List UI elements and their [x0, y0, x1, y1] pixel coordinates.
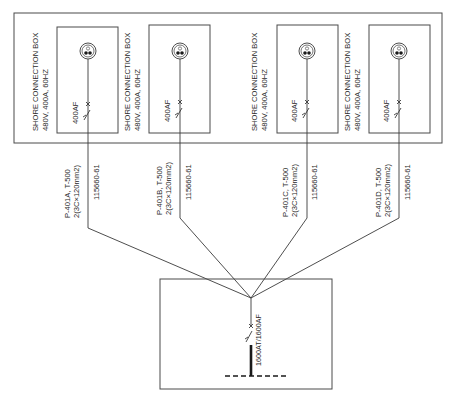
breaker-rating: 400AF — [290, 99, 299, 122]
breaker-symbol-icon — [175, 100, 182, 118]
shore-box-title: SHORE CONNECTION BOX — [343, 33, 352, 131]
cable-spec: 2(3C×120mm2) — [164, 162, 173, 215]
drawing-ref: 115660-61 — [403, 164, 412, 200]
shore-connection-box-2: SHORE CONNECTION BOX 480V, 400A, 60HZ 40… — [123, 25, 210, 218]
cable-id: P-401B, T-500 — [155, 166, 164, 215]
drawing-ref: 115660-61 — [92, 164, 101, 200]
receptacle-icon — [172, 43, 188, 59]
breaker-symbol-icon — [394, 100, 401, 118]
main-breaker-rating: 1600AT/1600AF — [254, 314, 263, 366]
breaker-symbol-icon — [83, 102, 90, 120]
feeder-cables — [88, 218, 399, 298]
drawing-ref: 115660-61 — [184, 164, 193, 200]
main-breaker-symbol-icon — [245, 324, 253, 342]
breaker-symbol-icon — [302, 100, 309, 118]
cable-spec: 2(3C×120mm2) — [383, 164, 392, 217]
cable-id: P-401C, T-500 — [281, 168, 290, 217]
shore-connection-box-3: SHORE CONNECTION BOX 480V, 400A, 60HZ 40… — [250, 25, 338, 218]
cable-spec: 2(3C×120mm2) — [72, 165, 81, 218]
drawing-ref: 115660-61 — [310, 164, 319, 200]
shore-box-rating: 480V, 400A, 60HZ — [260, 69, 269, 131]
receptacle-icon — [391, 43, 407, 59]
receptacle-icon — [299, 43, 315, 59]
shore-box-rating: 480V, 400A, 60HZ — [41, 69, 50, 131]
breaker-rating: 400AF — [163, 99, 172, 122]
receptacle-box — [149, 25, 210, 133]
receptacle-icon — [80, 43, 96, 59]
shore-box-rating: 480V, 400A, 60HZ — [133, 69, 142, 131]
receptacle-box — [277, 25, 338, 133]
single-line-diagram: SHORE CONNECTION BOX 480V, 400A, 60HZ 40… — [0, 0, 456, 396]
shore-connection-box-4: SHORE CONNECTION BOX 480V, 400A, 60HZ 40… — [343, 25, 430, 218]
shore-box-title: SHORE CONNECTION BOX — [250, 33, 259, 131]
cable-spec: 2(3C×120mm2) — [290, 164, 299, 217]
cable-id: P-401A, T-500 — [63, 169, 72, 218]
receptacle-box — [369, 25, 430, 133]
shore-box-title: SHORE CONNECTION BOX — [31, 33, 40, 131]
breaker-rating: 400AF — [71, 101, 80, 124]
shore-box-title: SHORE CONNECTION BOX — [123, 33, 132, 131]
breaker-rating: 400AF — [382, 99, 391, 122]
shore-box-rating: 480V, 400A, 60HZ — [353, 69, 362, 131]
shore-connection-box-1: SHORE CONNECTION BOX 480V, 400A, 60HZ 40… — [31, 27, 118, 228]
cable-id: P-401D, T-500 — [374, 168, 383, 217]
